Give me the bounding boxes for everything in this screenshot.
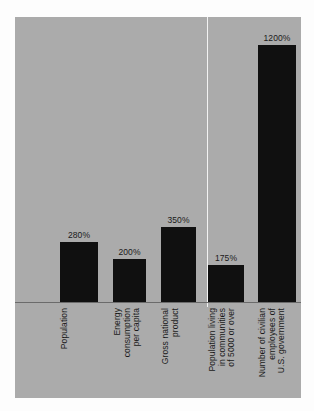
- bar-group: 350%: [161, 17, 196, 302]
- category-label-line: U.S. government: [277, 308, 286, 373]
- chart-panel: 280%200%350%175%1200% PopulationEnergyco…: [15, 17, 301, 398]
- bar-value-label: 200%: [110, 247, 150, 257]
- category-label-line: of 5000 or over: [227, 308, 236, 367]
- bar-value-label: 350%: [158, 215, 200, 225]
- category-label-line: Population: [60, 308, 69, 349]
- bar-group: 175%: [208, 17, 244, 302]
- category-label-line: consumption: [123, 308, 132, 357]
- category-label: Gross nationalproduct: [161, 308, 196, 364]
- category-label-line: Population living: [208, 308, 217, 372]
- bar-group: 280%: [60, 17, 98, 302]
- category-label-line: Energy: [113, 308, 122, 336]
- category-label: Population: [60, 308, 98, 349]
- category-label-line: Gross national: [161, 308, 170, 364]
- bar-value-label: 1200%: [254, 33, 300, 43]
- category-label-line: employees of: [268, 308, 277, 360]
- category-label-line: Number of civilian: [258, 308, 267, 377]
- bar: [60, 242, 98, 302]
- bar-group: 1200%: [258, 17, 296, 302]
- bar: [208, 265, 244, 303]
- category-label: Number of civilianemployees ofU.S. gover…: [258, 308, 296, 377]
- category-label-line: product: [171, 308, 180, 337]
- category-label-line: in communities: [218, 308, 227, 366]
- bar-group: 200%: [113, 17, 146, 302]
- bar: [258, 45, 296, 302]
- bar-value-label: 175%: [204, 253, 247, 263]
- axis-baseline: [15, 302, 301, 303]
- chart-figure: 280%200%350%175%1200% PopulationEnergyco…: [0, 0, 314, 411]
- bar: [161, 227, 196, 302]
- category-label-line: per capita: [132, 308, 141, 346]
- category-label: Population livingin communitiesof 5000 o…: [208, 308, 244, 372]
- bar-value-label: 280%: [56, 230, 102, 240]
- bar: [113, 259, 146, 302]
- category-label: Energyconsumptionper capita: [113, 308, 146, 357]
